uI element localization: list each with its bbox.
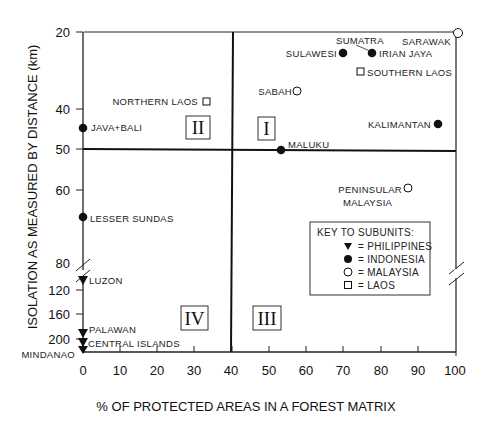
- legend-malaysia: = MALAYSIA: [358, 267, 419, 278]
- y-tick-80: 80: [56, 256, 70, 271]
- legend-philippines: = PHILIPPINES: [358, 241, 432, 252]
- y-tick-20: 20: [56, 25, 70, 40]
- x-tick-50: 50: [262, 363, 276, 378]
- point-luzon: [78, 276, 88, 285]
- y-tick-120: 120: [48, 283, 70, 298]
- label-sarawak: SARAWAK: [402, 36, 451, 47]
- point-java-bali: [79, 124, 88, 133]
- label-luzon: LUZON: [89, 275, 123, 286]
- label-mindanao: MINDANAO: [21, 349, 75, 360]
- x-tick-80: 80: [374, 363, 388, 378]
- x-axis-tick-labels: 0 10 20 30 40 50 60 70 80 90 100: [79, 363, 465, 378]
- point-southern-laos: [357, 68, 364, 75]
- label-palawan: PALAWAN: [89, 324, 136, 335]
- label-sabah: SABAH: [258, 86, 292, 97]
- point-sarawak: [454, 29, 463, 38]
- legend: KEY TO SUBUNITS: = PHILIPPINES = INDONES…: [310, 222, 432, 295]
- point-lesser-sundas: [79, 213, 88, 222]
- point-mindanao: [78, 346, 88, 354]
- x-tick-90: 90: [411, 363, 425, 378]
- y-axis-title: ISOLATION AS MEASURED BY DISTANCE (km): [25, 45, 40, 330]
- x-tick-20: 20: [150, 363, 164, 378]
- label-sumatra: SUMATRA: [336, 35, 384, 46]
- label-lesser-sundas: LESSER SUNDAS: [90, 213, 174, 224]
- legend-square-icon: [345, 282, 352, 289]
- point-kalimantan: [434, 120, 443, 129]
- y-tick-40: 40: [56, 102, 70, 117]
- quadrant-label-i: I: [258, 117, 275, 140]
- label-kalimantan: KALIMANTAN: [368, 119, 431, 130]
- quadrant-label-iv: IV: [181, 306, 208, 330]
- legend-title: KEY TO SUBUNITS:: [317, 227, 414, 238]
- point-sumatra-irian-jaya: [368, 49, 377, 58]
- x-axis-title: % OF PROTECTED AREAS IN A FOREST MATRIX: [96, 399, 396, 414]
- legend-open-circle-icon: [344, 268, 352, 276]
- quadrant-label-iii: III: [253, 306, 281, 330]
- point-peninsular-malaysia: [404, 184, 412, 192]
- svg-text:III: III: [258, 308, 277, 329]
- x-tick-60: 60: [299, 363, 313, 378]
- label-central-islands: CENTRAL ISLANDS: [88, 338, 180, 349]
- svg-text:I: I: [263, 118, 269, 139]
- label-northern-laos: NORTHERN LAOS: [112, 96, 198, 107]
- y-tick-160: 160: [48, 307, 70, 322]
- label-irian-jaya: IRIAN JAYA: [379, 48, 433, 59]
- y-tick-60: 60: [56, 183, 70, 198]
- y-axis-ticks: [76, 32, 83, 339]
- label-southern-laos: SOUTHERN LAOS: [367, 67, 452, 78]
- x-tick-70: 70: [336, 363, 350, 378]
- legend-filled-circle-icon: [344, 255, 352, 263]
- label-sulawesi: SULAWESI: [286, 48, 337, 59]
- point-northern-laos: [203, 98, 210, 105]
- point-sulawesi: [339, 49, 348, 58]
- label-java-bali: JAVA+BALI: [91, 122, 142, 133]
- legend-indonesia: = INDONESIA: [358, 254, 425, 265]
- svg-text:II: II: [192, 117, 205, 138]
- svg-text:IV: IV: [184, 308, 204, 329]
- quadrant-label-ii: II: [186, 116, 210, 139]
- label-malaysia: MALAYSIA: [343, 197, 393, 208]
- x-tick-40: 40: [224, 363, 238, 378]
- point-sabah: [293, 87, 301, 95]
- y-tick-50: 50: [56, 142, 70, 157]
- label-maluku: MALUKU: [288, 139, 329, 150]
- point-palawan: [78, 329, 88, 338]
- point-maluku: [277, 146, 286, 155]
- label-peninsular: PENINSULAR: [338, 184, 402, 195]
- y-tick-200: 200: [48, 332, 70, 347]
- legend-laos: = LAOS: [358, 280, 395, 291]
- x-tick-0: 0: [79, 363, 86, 378]
- y-axis-tick-labels: 20 40 50 60 80 120 160 200: [48, 25, 70, 347]
- x-tick-100: 100: [444, 363, 466, 378]
- point-central-islands: [78, 338, 88, 347]
- x-tick-30: 30: [187, 363, 201, 378]
- x-tick-10: 10: [113, 363, 127, 378]
- scatter-chart: 20 40 50 60 80 120 160 200 0 10 20 30 40…: [0, 0, 490, 424]
